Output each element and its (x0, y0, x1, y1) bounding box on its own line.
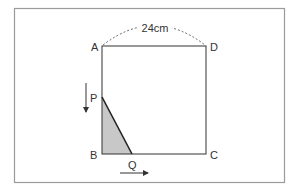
diagram-canvas: 24cm A D P B C Q (0, 0, 294, 196)
dimension-label: 24cm (142, 22, 169, 34)
vertex-label-a: A (91, 41, 99, 53)
vertex-label-b: B (90, 149, 97, 161)
vertex-label-d: D (210, 41, 218, 53)
vertex-label-p: P (90, 92, 97, 104)
vertex-label-c: C (210, 149, 218, 161)
vertex-label-q: Q (128, 159, 137, 171)
